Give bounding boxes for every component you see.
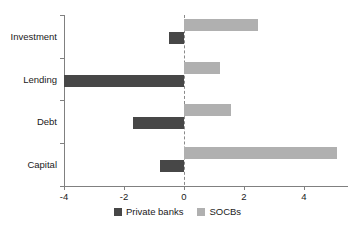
x-axis-tick — [244, 186, 245, 190]
x-axis-tick — [64, 186, 65, 190]
legend-swatch-icon — [197, 208, 205, 216]
bar-private-banks-lending — [64, 75, 184, 87]
x-axis-tick — [124, 186, 125, 190]
category-label-debt: Debt — [37, 116, 57, 127]
category-label-lending: Lending — [23, 74, 57, 85]
category-label-investment: Investment — [11, 31, 57, 42]
bar-private-banks-capital — [160, 160, 184, 172]
legend-item-socbs: SOCBs — [197, 206, 241, 217]
legend-label-socbs: SOCBs — [209, 206, 241, 217]
bar-private-banks-debt — [133, 117, 184, 129]
bar-socbs-debt — [184, 104, 231, 116]
chart-legend: Private banks SOCBs — [0, 206, 355, 217]
zero-reference-line — [184, 15, 185, 190]
bar-private-banks-investment — [169, 32, 184, 44]
legend-item-private-banks: Private banks — [114, 206, 184, 217]
x-axis-tick-label: 4 — [289, 191, 319, 202]
plot-area: Investment Lending Debt Capital -4 -2 0 … — [0, 0, 355, 228]
y-axis-tick — [60, 58, 65, 59]
x-axis-tick-label: 0 — [169, 191, 199, 202]
y-axis-tick — [60, 143, 65, 144]
y-axis-tick — [60, 100, 65, 101]
legend-label-private-banks: Private banks — [126, 206, 184, 217]
x-axis-tick — [184, 186, 185, 190]
x-axis-tick-label: -2 — [109, 191, 139, 202]
legend-swatch-icon — [114, 208, 122, 216]
y-axis-tick — [60, 15, 65, 16]
bar-chart: Investment Lending Debt Capital -4 -2 0 … — [0, 0, 355, 228]
category-label-capital: Capital — [27, 159, 57, 170]
x-axis-tick-label: -4 — [49, 191, 79, 202]
x-axis-tick-label: 2 — [229, 191, 259, 202]
x-axis-tick — [304, 186, 305, 190]
bar-socbs-lending — [184, 62, 220, 74]
bar-socbs-capital — [184, 147, 337, 159]
bar-socbs-investment — [184, 19, 258, 31]
x-axis-line — [64, 186, 348, 187]
